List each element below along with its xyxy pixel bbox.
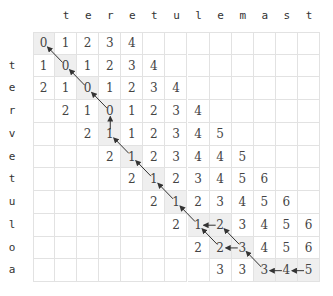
table-cell: 1 (77, 100, 99, 123)
column-label: s (276, 5, 298, 27)
table-cell (276, 123, 298, 146)
table-cell (121, 237, 143, 260)
table-cell (143, 214, 165, 237)
table-cell (188, 259, 210, 282)
table-cell (143, 259, 165, 282)
table-cell: 2 (77, 32, 99, 55)
table-cell: 3 (232, 237, 254, 260)
table-cell: 5 (276, 237, 298, 260)
table-cell (55, 123, 77, 146)
table-cell: 2 (143, 146, 165, 169)
table-cell (99, 259, 121, 282)
table-cell: 2 (188, 237, 210, 260)
table-cell: 3 (143, 77, 165, 100)
table-cell (210, 55, 232, 78)
table-cell: 1 (55, 32, 77, 55)
table-cell: 4 (210, 168, 232, 191)
table-cell: 4 (188, 100, 210, 123)
table-cell (210, 77, 232, 100)
table-cell (232, 123, 254, 146)
table-cell (298, 55, 320, 78)
column-label: t (55, 5, 77, 27)
table-cell: 2 (165, 168, 187, 191)
row-label: u (2, 191, 22, 213)
row-label: e (2, 77, 22, 99)
row-label: t (2, 168, 22, 190)
table-cell: 5 (276, 214, 298, 237)
table-cell: 4 (210, 146, 232, 169)
table-cell: 2 (99, 146, 121, 169)
table-cell (232, 32, 254, 55)
table-cell (77, 214, 99, 237)
table-cell (55, 146, 77, 169)
table-cell: 1 (33, 55, 55, 78)
column-label: e (77, 5, 99, 27)
table-cell: 2 (143, 100, 165, 123)
table-cell: 4 (188, 123, 210, 146)
table-cell (33, 123, 55, 146)
table-cell: 3 (165, 100, 187, 123)
table-cell (33, 168, 55, 191)
table-cell (232, 55, 254, 78)
table-cell (77, 259, 99, 282)
table-cell: 1 (55, 77, 77, 100)
table-cell: 2 (165, 214, 187, 237)
row-label: a (2, 259, 22, 281)
table-cell (99, 191, 121, 214)
table-cell: 2 (121, 77, 143, 100)
table-cell (254, 123, 276, 146)
column-label: a (254, 5, 276, 27)
table-cell (33, 100, 55, 123)
row-label: t (2, 55, 22, 77)
table-cell: 1 (165, 191, 187, 214)
table-cell (77, 146, 99, 169)
table-cell: 3 (99, 32, 121, 55)
table-cell: 4 (188, 146, 210, 169)
table-cell (276, 168, 298, 191)
table-cell (77, 237, 99, 260)
table-cell (254, 100, 276, 123)
column-label: t (298, 5, 320, 27)
table-cell: 1 (99, 77, 121, 100)
table-cell: 3 (121, 55, 143, 78)
table-cell: 2 (55, 100, 77, 123)
table-cell (276, 146, 298, 169)
table-cell (99, 168, 121, 191)
table-cell (298, 146, 320, 169)
table-cell: 4 (276, 259, 298, 282)
table-cell: 1 (77, 55, 99, 78)
table-cell: 3 (165, 123, 187, 146)
table-cell: 3 (254, 259, 276, 282)
table-cell: 2 (210, 237, 232, 260)
table-cell: 3 (188, 168, 210, 191)
table-cell (33, 237, 55, 260)
table-cell: 5 (210, 123, 232, 146)
table-cell (121, 214, 143, 237)
row-label: l (2, 214, 22, 236)
table-cell (210, 100, 232, 123)
table-cell: 3 (232, 214, 254, 237)
column-label: t (143, 5, 165, 27)
table-cell (298, 191, 320, 214)
table-cell (232, 77, 254, 100)
table-cell: 0 (77, 77, 99, 100)
table-cell (55, 168, 77, 191)
table-cell (165, 55, 187, 78)
row-label: o (2, 237, 22, 259)
table-cell: 1 (188, 214, 210, 237)
table-cell (210, 32, 232, 55)
row-label: e (2, 146, 22, 168)
table-cell: 3 (232, 259, 254, 282)
table-cell (99, 214, 121, 237)
table-cell (298, 100, 320, 123)
column-label: r (99, 5, 121, 27)
table-cell: 2 (99, 55, 121, 78)
row-label: v (2, 123, 22, 145)
row-label: r (2, 100, 22, 122)
column-label: e (210, 5, 232, 27)
table-cell: 2 (77, 123, 99, 146)
table-cell (254, 77, 276, 100)
table-cell (232, 100, 254, 123)
column-label: l (188, 5, 210, 27)
table-cell (165, 237, 187, 260)
